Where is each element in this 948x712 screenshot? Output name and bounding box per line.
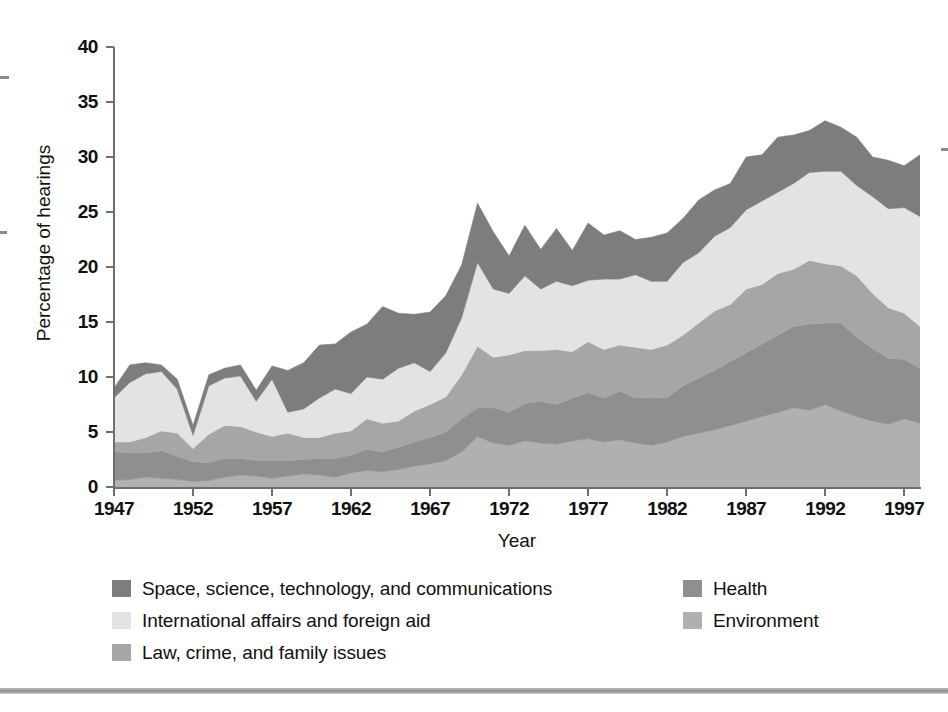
x-axis-tick-label: 1972 xyxy=(469,499,549,518)
x-axis-line xyxy=(113,487,921,489)
y-axis-tick xyxy=(106,46,114,48)
x-axis-tick xyxy=(745,487,747,496)
x-axis-tick xyxy=(824,487,826,496)
x-axis-tick-label: 1967 xyxy=(390,499,470,518)
page-edge-mark xyxy=(941,148,948,151)
x-axis-tick xyxy=(903,487,905,496)
x-axis-tick xyxy=(508,487,510,496)
y-axis-tick xyxy=(106,431,114,433)
legend-swatch-icon xyxy=(683,612,702,629)
legend-item[interactable]: International affairs and foreign aid xyxy=(112,604,552,636)
legend-item[interactable]: Space, science, technology, and communic… xyxy=(112,572,552,604)
x-axis-tick-label: 1947 xyxy=(74,499,154,518)
legend-swatch-icon xyxy=(112,612,131,629)
y-axis-tick-label: 25 xyxy=(54,202,98,221)
y-axis-tick-label: 0 xyxy=(54,477,98,496)
y-axis-tick xyxy=(106,321,114,323)
legend-column-left: Space, science, technology, and communic… xyxy=(112,572,552,668)
x-axis-tick xyxy=(429,487,431,496)
legend-item-label: Law, crime, and family issues xyxy=(142,643,386,662)
legend-item-label: International affairs and foreign aid xyxy=(142,611,431,630)
x-axis-tick-label: 1977 xyxy=(548,499,628,518)
y-axis-tick xyxy=(106,156,114,158)
plot-area xyxy=(114,47,920,487)
legend-item-label: Environment xyxy=(713,611,819,630)
y-axis-tick-label: 10 xyxy=(54,367,98,386)
stacked-area-chart xyxy=(114,47,920,487)
legend-item[interactable]: Law, crime, and family issues xyxy=(112,636,552,668)
x-axis-title: Year xyxy=(114,531,920,552)
y-axis-tick xyxy=(106,266,114,268)
legend-item-label: Health xyxy=(713,579,767,598)
y-axis-tick-label: 15 xyxy=(54,312,98,331)
y-axis-tick-label: 30 xyxy=(54,147,98,166)
figure: 0510152025303540 19471952195719621967197… xyxy=(0,0,948,712)
y-axis-title: Percentage of hearings xyxy=(33,133,55,353)
page-edge-mark xyxy=(0,231,7,234)
y-axis-tick-label: 20 xyxy=(54,257,98,276)
legend-item-label: Space, science, technology, and communic… xyxy=(142,579,552,598)
y-axis-tick-label: 5 xyxy=(54,422,98,441)
x-axis-tick-label: 1987 xyxy=(706,499,786,518)
x-axis-tick xyxy=(192,487,194,496)
y-axis-tick xyxy=(106,376,114,378)
x-axis-tick-label: 1952 xyxy=(153,499,233,518)
x-axis-tick-label: 1962 xyxy=(311,499,391,518)
legend-swatch-icon xyxy=(112,580,131,597)
y-axis-tick xyxy=(106,101,114,103)
x-axis-tick xyxy=(587,487,589,496)
x-axis-tick-label: 1957 xyxy=(232,499,312,518)
legend-item[interactable]: Environment xyxy=(683,604,819,636)
x-axis-tick xyxy=(113,487,115,496)
y-axis-tick-label: 40 xyxy=(54,37,98,56)
x-axis-tick-label: 1992 xyxy=(785,499,865,518)
y-axis-tick-label: 35 xyxy=(54,92,98,111)
y-axis-tick xyxy=(106,211,114,213)
legend-swatch-icon xyxy=(112,644,131,661)
legend-column-right: HealthEnvironment xyxy=(683,572,819,636)
page-edge-mark xyxy=(0,76,9,79)
legend-item[interactable]: Health xyxy=(683,572,819,604)
bottom-rule xyxy=(0,688,948,694)
x-axis-tick xyxy=(271,487,273,496)
x-axis-tick xyxy=(666,487,668,496)
x-axis-tick xyxy=(350,487,352,496)
legend: Space, science, technology, and communic… xyxy=(0,572,948,668)
legend-swatch-icon xyxy=(683,580,702,597)
x-axis-tick-label: 1982 xyxy=(627,499,707,518)
x-axis-tick-label: 1997 xyxy=(864,499,944,518)
